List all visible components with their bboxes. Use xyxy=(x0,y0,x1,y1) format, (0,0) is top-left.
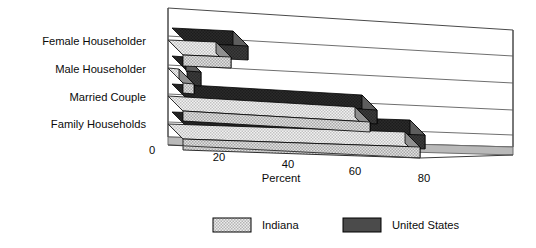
legend-label-indiana: Indiana xyxy=(262,219,299,231)
bar-chart-3d: Female Householder Male Householder Marr… xyxy=(0,0,536,248)
x-tick-40: 40 xyxy=(282,158,294,170)
x-tick-0: 0 xyxy=(149,144,155,156)
indiana-swatch xyxy=(213,218,251,232)
legend-item-united-states[interactable]: United States xyxy=(343,218,460,232)
category-label-married-couple: Married Couple xyxy=(70,91,146,103)
chart-container: Female Householder Male Householder Marr… xyxy=(0,0,536,248)
category-label-family-households: Family Households xyxy=(51,118,147,130)
category-label-male-householder: Male Householder xyxy=(55,63,146,75)
x-tick-60: 60 xyxy=(349,165,361,177)
x-tick-20: 20 xyxy=(213,151,225,163)
x-axis-title: Percent xyxy=(262,172,301,184)
united-states-swatch xyxy=(343,218,381,232)
legend: Indiana United States xyxy=(213,218,460,232)
x-tick-80: 80 xyxy=(418,172,430,184)
category-label-female-householder: Female Householder xyxy=(42,35,146,47)
legend-item-indiana[interactable]: Indiana xyxy=(213,218,299,232)
legend-label-united-states: United States xyxy=(392,219,460,231)
